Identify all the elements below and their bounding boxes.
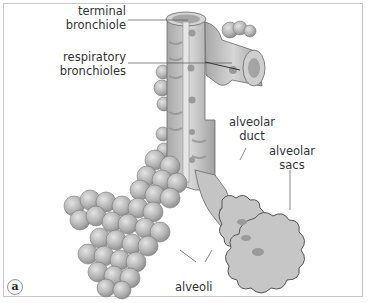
label-alveolar-sacs: alveolar sacs [262,144,322,172]
alveoli-cluster [64,150,187,299]
label-respiratory-bronchioles: respiratory bronchioles [40,50,126,78]
label-terminal-bronchiole: terminal bronchiole [60,4,126,32]
alveolar-sacs [219,195,305,293]
label-alveoli: alveoli [175,280,213,294]
label-alveolar-duct: alveolar duct [222,115,282,143]
panel-letter-badge: a [7,279,23,295]
